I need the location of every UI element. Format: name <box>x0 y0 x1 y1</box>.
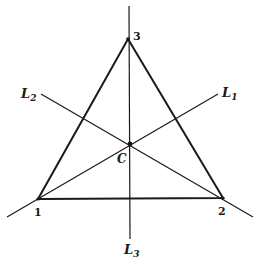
vertex-3-label: 3 <box>133 30 141 43</box>
vertex-3-point <box>126 37 130 41</box>
line-L3-subscript: 3 <box>133 249 139 259</box>
line-L1-label: L1 <box>221 85 237 102</box>
vertex-2-label: 2 <box>218 205 226 218</box>
vertex-1-point <box>36 197 39 200</box>
line-L3-label: L3 <box>123 242 139 259</box>
line-L2-name: L <box>20 86 30 101</box>
vertex-1-label: 1 <box>34 206 42 219</box>
center-label: C <box>117 152 127 166</box>
vertex-2-point <box>221 196 224 199</box>
line-L2-label: L2 <box>20 86 36 103</box>
center-point <box>128 142 133 147</box>
line-L1-name: L <box>221 85 231 100</box>
line-L3-name: L <box>123 242 133 257</box>
line-L2-subscript: 2 <box>29 93 36 103</box>
line-L1-subscript: 1 <box>231 92 237 102</box>
triangle <box>38 39 223 199</box>
diagram-canvas: 3 1 2 C L2 L1 L3 <box>0 0 259 265</box>
